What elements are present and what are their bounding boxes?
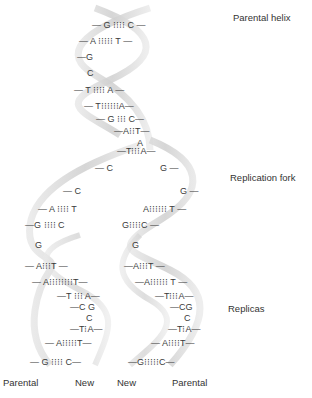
base-pair: C xyxy=(87,68,94,78)
label-bottom-parental-right: Parental xyxy=(172,377,207,388)
base-pair: —T ⁝⁝⁝ A— xyxy=(57,291,100,301)
label-bottom-parental-left: Parental xyxy=(3,377,38,388)
base-pair: — T⁝⁝⁝⁝⁝⁝A— xyxy=(84,101,134,111)
label-replicas: Replicas xyxy=(228,303,264,314)
label-parental-helix: Parental helix xyxy=(233,12,291,23)
base-pair: — G ⁝⁝⁝ C— xyxy=(96,114,144,124)
base-pair: — A ⁝⁝⁝⁝ T xyxy=(38,204,77,214)
base-pair: A⁝⁝⁝⁝⁝⁝ T — xyxy=(143,204,186,214)
base-pair: — A⁝⁝⁝T — xyxy=(25,261,68,271)
base-pair: C xyxy=(86,313,93,323)
base-pair: — A⁝⁝⁝⁝⁝T— xyxy=(45,338,92,348)
base-pair: G xyxy=(132,240,139,250)
base-pair: —G xyxy=(77,52,93,62)
base-pair: G — xyxy=(180,186,199,196)
base-pair: —T⁝⁝⁝A— xyxy=(155,291,194,301)
base-pair: —A⁝⁝T— xyxy=(114,126,150,136)
base-pair: —T⁝A— xyxy=(70,324,103,334)
base-pair: — A⁝⁝⁝⁝T— xyxy=(151,338,195,348)
base-pair: — G ⁝⁝⁝⁝ C— xyxy=(30,357,81,367)
base-pair: G xyxy=(35,240,42,250)
base-pair: — A ⁝⁝⁝⁝⁝ T — xyxy=(79,36,132,46)
label-bottom-new-left: New xyxy=(75,377,94,388)
base-pair: —A⁝⁝⁝T — xyxy=(124,261,165,271)
base-pair: — C xyxy=(95,163,113,173)
base-pair: —G⁝⁝⁝⁝⁝C— xyxy=(128,357,175,367)
base-pair: —G ⁝⁝⁝⁝ C xyxy=(25,220,65,230)
base-pair: —C G xyxy=(70,302,95,312)
base-pair: — G ⁝⁝⁝⁝ C — xyxy=(92,20,146,30)
label-replication-fork: Replication fork xyxy=(230,172,295,183)
base-pair: G⁝⁝⁝⁝C — xyxy=(122,220,159,230)
base-pair: — A⁝⁝⁝⁝⁝⁝⁝⁝T— xyxy=(32,277,88,287)
base-pair: —CG xyxy=(170,302,193,312)
base-pair: —T⁝A— xyxy=(168,324,201,334)
base-pair: C xyxy=(184,313,191,323)
label-bottom-new-right: New xyxy=(117,377,136,388)
base-pair: — C xyxy=(63,186,81,196)
base-pair: G — xyxy=(160,163,179,173)
base-pair: —T⁝⁝⁝A— xyxy=(117,146,156,156)
base-pair: — T ⁝⁝⁝⁝ A — xyxy=(74,85,124,95)
base-pair: —A⁝⁝⁝⁝⁝⁝ T — xyxy=(135,277,187,287)
